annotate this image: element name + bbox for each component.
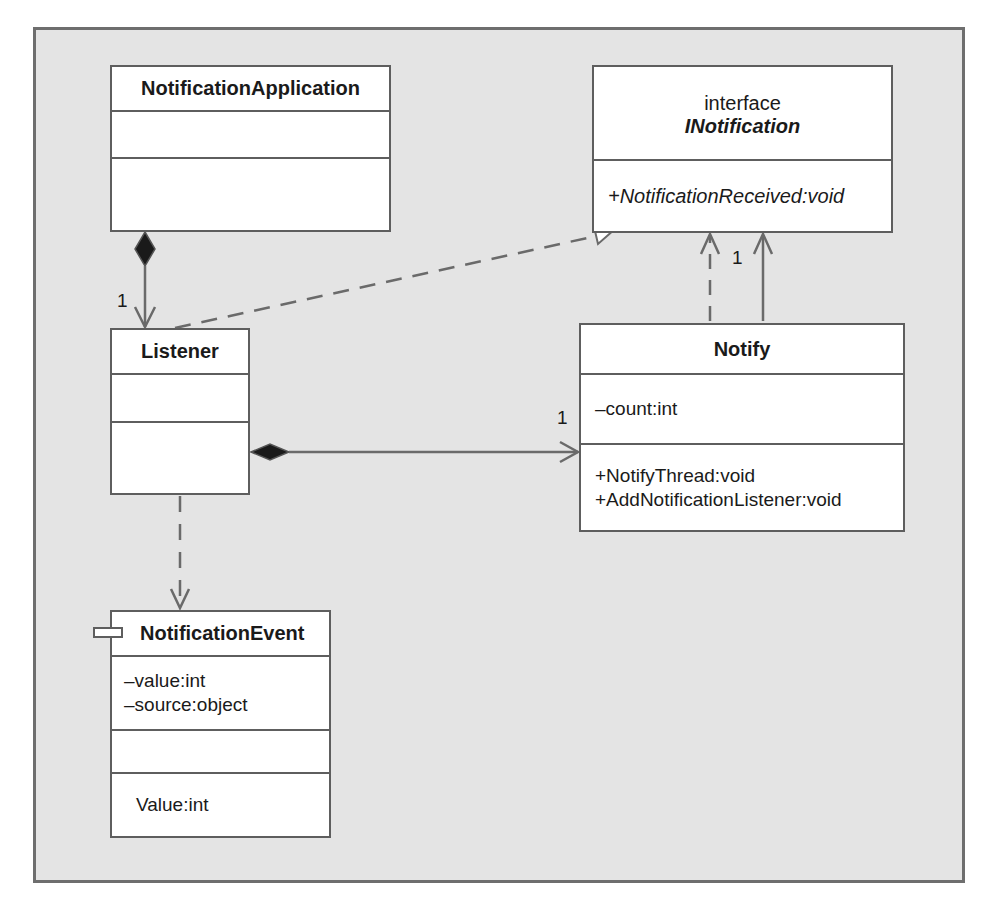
class-header: Listener xyxy=(112,330,248,373)
class-notification-event[interactable]: NotificationEvent –value:int –source:obj… xyxy=(110,610,331,838)
class-header: Notify xyxy=(581,325,903,373)
operations-compartment: +NotificationReceived:void xyxy=(594,159,891,231)
property-item: Value:int xyxy=(136,793,209,817)
class-header: NotificationApplication xyxy=(112,67,389,110)
attribute-item: –value:int xyxy=(124,669,315,693)
attribute-item: –count:int xyxy=(595,397,677,421)
operation-item: +AddNotificationListener:void xyxy=(595,488,889,512)
attributes-compartment xyxy=(112,110,389,157)
class-name: Listener xyxy=(141,340,219,363)
multiplicity-app-listener: 1 xyxy=(117,290,128,312)
operations-compartment: +NotifyThread:void +AddNotificationListe… xyxy=(581,443,903,530)
class-header: NotificationEvent xyxy=(112,612,329,655)
attributes-compartment: –value:int –source:object xyxy=(112,655,329,729)
operations-compartment xyxy=(112,729,329,772)
class-notify[interactable]: Notify –count:int +NotifyThread:void +Ad… xyxy=(579,323,905,532)
attributes-compartment: –count:int xyxy=(581,373,903,443)
properties-compartment: Value:int xyxy=(112,772,329,836)
attributes-compartment xyxy=(112,373,248,421)
event-class-icon xyxy=(93,627,123,638)
interface-name: INotification xyxy=(685,115,801,138)
operation-item: +NotificationReceived:void xyxy=(608,184,844,208)
class-listener[interactable]: Listener xyxy=(110,328,250,495)
operation-item: +NotifyThread:void xyxy=(595,464,889,488)
interface-inotification[interactable]: interface INotification +NotificationRec… xyxy=(592,65,893,233)
class-name: Notify xyxy=(714,338,771,361)
class-name: NotificationApplication xyxy=(141,77,360,100)
attribute-item: –source:object xyxy=(124,693,315,717)
operations-compartment xyxy=(112,157,389,230)
interface-header: interface INotification xyxy=(594,67,891,159)
multiplicity-listener-notify: 1 xyxy=(557,407,568,429)
stereotype-label: interface xyxy=(704,92,781,115)
class-name: NotificationEvent xyxy=(140,622,304,645)
operations-compartment xyxy=(112,421,248,493)
class-notification-application[interactable]: NotificationApplication xyxy=(110,65,391,232)
multiplicity-notify-interface: 1 xyxy=(732,247,743,269)
